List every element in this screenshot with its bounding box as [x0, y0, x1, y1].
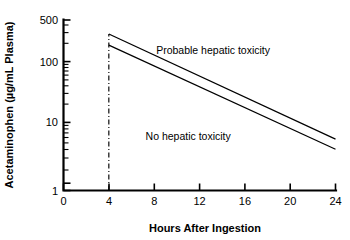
- x-tick-label-16: 16: [239, 195, 251, 207]
- y-axis-title: Acetaminophen (µg/mL Plasma): [3, 21, 15, 188]
- y-tick-label-10: 10: [46, 116, 58, 128]
- y-tick-label-500: 500: [40, 14, 58, 26]
- x-tick-label-20: 20: [284, 195, 296, 207]
- x-axis-title: Hours After Ingestion: [149, 222, 261, 234]
- y-tick-label-100: 100: [40, 56, 58, 68]
- chart-canvas: Acetaminophen (µg/mL Plasma) Hours After…: [0, 0, 350, 240]
- probable-toxicity-label: Probable hepatic toxicity: [156, 44, 271, 56]
- no-toxicity-label: No hepatic toxicity: [146, 130, 232, 142]
- x-tick-label-0: 0: [60, 195, 66, 207]
- acetaminophen-nomogram-figure: Acetaminophen (µg/mL Plasma) Hours After…: [0, 0, 350, 240]
- x-tick-label-12: 12: [193, 195, 205, 207]
- x-tick-label-8: 8: [151, 195, 157, 207]
- x-tick-label-24: 24: [329, 195, 341, 207]
- y-tick-label-1: 1: [52, 185, 58, 197]
- x-tick-label-4: 4: [106, 195, 112, 207]
